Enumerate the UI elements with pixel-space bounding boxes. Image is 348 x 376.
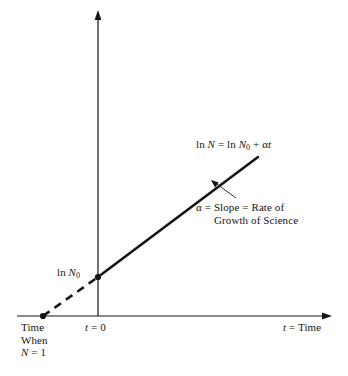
x-axis-label: t = Time xyxy=(283,321,321,334)
equation-prefix: ln xyxy=(196,138,208,150)
growth-of-science-diagram xyxy=(0,0,348,376)
slope-line-1: = Slope = Rate of xyxy=(202,201,284,213)
origin-note-line-3: N = 1 xyxy=(21,346,48,359)
intercept-var-n: N xyxy=(69,266,76,278)
origin-tick-text: = 0 xyxy=(88,321,106,333)
intercept-prefix: ln xyxy=(57,266,69,278)
origin-tick-label: t = 0 xyxy=(85,321,106,334)
marker-intercept-ln-n0 xyxy=(95,274,101,280)
origin-note-line-3-text: = 1 xyxy=(28,346,46,358)
equation-annotation: ln N = ln N0 + αt xyxy=(196,138,271,155)
x-axis-label-text: = Time xyxy=(286,321,321,333)
marker-time-when-n-equals-1 xyxy=(40,313,46,319)
origin-note-line-1: Time xyxy=(21,321,48,334)
x-axis-arrowhead xyxy=(322,313,332,320)
slope-annotation: α = Slope = Rate ofGrowth of Science xyxy=(196,201,298,226)
dashed-growth-line xyxy=(43,277,98,316)
slope-line-2: Growth of Science xyxy=(196,214,298,227)
equation-var-n0: N xyxy=(239,138,246,150)
intercept-subscript-zero: 0 xyxy=(76,271,80,280)
time-when-n-equals-1-note: TimeWhenN = 1 xyxy=(21,321,48,359)
equation-var-t: t xyxy=(268,138,271,150)
y-axis-arrowhead xyxy=(95,10,102,20)
equation-equals: = ln xyxy=(215,138,239,150)
equation-plus: + xyxy=(250,138,262,150)
equation-var-n: N xyxy=(208,138,215,150)
intercept-label: ln N0 xyxy=(57,266,80,283)
origin-note-line-2: When xyxy=(21,334,48,347)
